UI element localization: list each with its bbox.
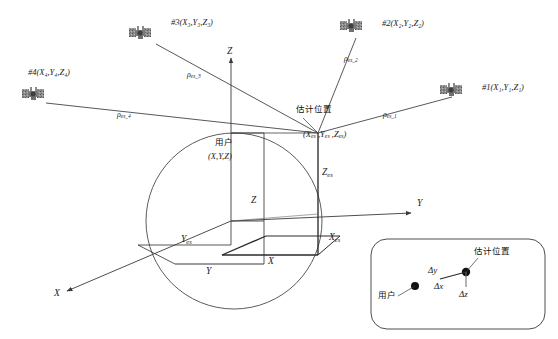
inset-delta-y-label: Δy <box>428 266 437 275</box>
satellite-label-1: #1(X₁,Y₁,Z₁) <box>482 83 524 92</box>
range-label-1: ρes_1 <box>383 111 397 120</box>
gnss-position-error-diagram: #1(X₁,Y₁,Z₁) #2(X₂,Y₂,Z₂) #3(X₃,Y₃,Z₃) #… <box>0 0 558 339</box>
satellite-icon-3 <box>129 26 151 39</box>
inset-delta-x-label: Δx <box>434 282 443 291</box>
est-base-diag-line <box>222 236 266 255</box>
inset-user-label: 用户 <box>378 291 396 300</box>
axis-line-x <box>67 221 231 291</box>
range-label-4: ρes_4 <box>117 111 131 120</box>
axis-label-z: Z <box>227 47 232 57</box>
estimated-position-coords: (Xes ,Yes ,Zes) <box>303 130 346 140</box>
range-label-3: ρes_3 <box>187 71 201 80</box>
range-line-3 <box>156 44 318 133</box>
user-label: 用户 <box>215 138 233 147</box>
x-est-label: Xes <box>329 233 340 243</box>
range-line-4 <box>46 103 318 133</box>
satellite-icon-2 <box>340 19 362 32</box>
satellite-icon-4 <box>22 87 44 100</box>
range-label-2: ρes_2 <box>344 55 358 64</box>
user-coords: (X,Y,Z) <box>208 152 232 161</box>
detail-inset-frame <box>371 239 545 329</box>
satellite-label-2: #2(X₂,Y₂,Z₂) <box>382 19 424 28</box>
satellite-label-3: #3(X₃,Y₃,Z₃) <box>171 18 213 27</box>
estimated-position-label: 估计位置 <box>296 105 332 114</box>
satellite-label-4: #4(X₄,Y₄,Z₄) <box>28 68 70 77</box>
z-est-label: Zes <box>322 168 333 178</box>
axis-line-y <box>231 213 411 221</box>
x-true-label: X <box>268 257 274 267</box>
range-line-2 <box>318 38 356 133</box>
y-est-label: Yes <box>181 235 192 245</box>
inset-delta-z-label: Δz <box>459 290 468 299</box>
satellite-icon-1 <box>440 83 462 96</box>
axis-label-y: Y <box>417 199 422 209</box>
y-true-label: Y <box>206 267 211 277</box>
diagram-canvas <box>0 0 558 339</box>
z-true-label: Z <box>251 196 256 206</box>
inset-estimated-label: 估计位置 <box>474 247 510 256</box>
user-base-diag-line <box>138 245 175 264</box>
axis-label-x: X <box>54 289 60 299</box>
